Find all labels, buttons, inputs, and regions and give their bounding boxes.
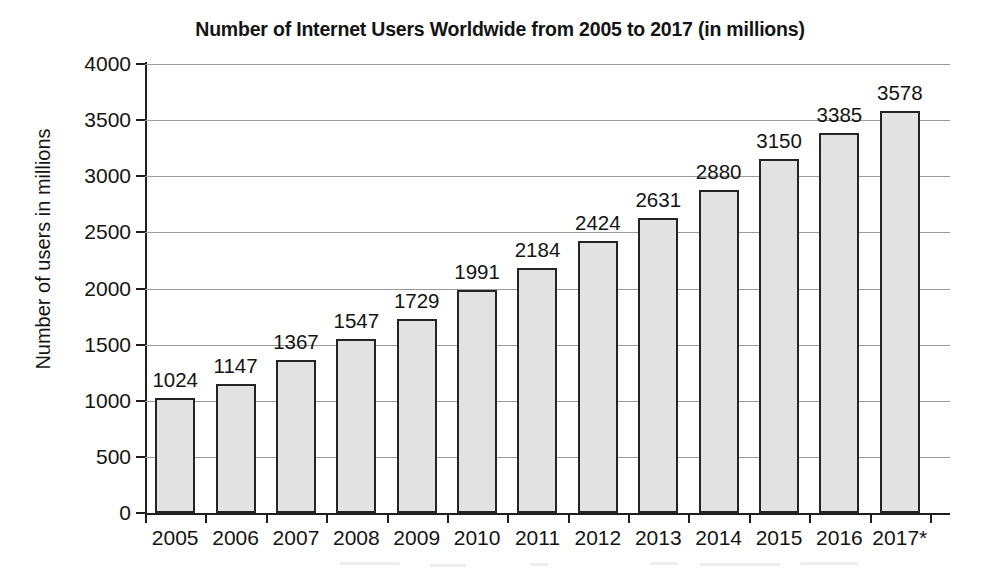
bar-value-label: 2424 (575, 211, 621, 235)
x-axis-tick (930, 513, 932, 523)
x-axis-tick-label: 2010 (454, 526, 501, 550)
x-axis-tick-label: 2014 (695, 526, 742, 550)
bar-group: 13672007 (266, 64, 326, 513)
bar-value-label: 2184 (515, 238, 561, 262)
y-axis-tick (136, 119, 145, 121)
bar-group: 33852016 (809, 64, 869, 513)
bar[interactable] (638, 218, 678, 513)
y-axis-tick-label: 1500 (84, 333, 131, 357)
bar-value-label: 3578 (877, 81, 923, 105)
bar-value-label: 2631 (635, 188, 681, 212)
bar[interactable] (699, 190, 739, 513)
bar[interactable] (397, 319, 437, 513)
x-axis-tick-label: 2009 (393, 526, 440, 550)
bar-group: 11472006 (205, 64, 265, 513)
plot-area: 05001000150020002500300035004000 1024200… (145, 64, 930, 513)
x-axis-tick (688, 513, 690, 523)
y-axis-tick-label: 500 (96, 445, 131, 469)
y-axis-tick (136, 231, 145, 233)
bar-value-label: 3385 (817, 103, 863, 127)
x-axis-tick (628, 513, 630, 523)
bar-group: 17292009 (387, 64, 447, 513)
x-axis-tick-label: 2015 (756, 526, 803, 550)
x-axis-tick-label: 2008 (333, 526, 380, 550)
bar-value-label: 1147 (214, 354, 258, 378)
bar[interactable] (578, 241, 618, 513)
y-axis-tick-label: 2000 (84, 277, 131, 301)
y-axis-tick (136, 400, 145, 402)
x-axis-tick (145, 513, 147, 523)
bar[interactable] (216, 384, 256, 513)
y-axis-tick-label: 4000 (84, 52, 131, 76)
y-axis-tick (136, 63, 145, 65)
scan-artifact (800, 562, 858, 565)
y-axis-tick (136, 344, 145, 346)
bar-group: 24242012 (568, 64, 628, 513)
bar-group: 31502015 (749, 64, 809, 513)
y-axis-tick-label: 3500 (84, 108, 131, 132)
bar-chart-figure: Number of Internet Users Worldwide from … (0, 0, 1000, 584)
x-axis-tick-label: 2006 (212, 526, 259, 550)
x-axis-tick-label: 2017* (872, 526, 927, 550)
x-axis-tick-label: 2007 (273, 526, 320, 550)
scan-artifact (430, 564, 466, 567)
bar-value-label: 1547 (334, 309, 380, 333)
x-axis-tick (205, 513, 207, 523)
scan-artifact (340, 562, 400, 565)
scan-artifact (650, 562, 678, 565)
bars-layer: 1024200511472006136720071547200817292009… (145, 64, 930, 513)
bar-group: 19912010 (447, 64, 507, 513)
bar-value-label: 1991 (454, 260, 500, 284)
y-axis-tick (136, 175, 145, 177)
bar-value-label: 1024 (152, 368, 198, 392)
bar-group: 26312013 (628, 64, 688, 513)
y-axis-tick-label: 3000 (84, 164, 131, 188)
x-axis-tick (568, 513, 570, 523)
chart-title: Number of Internet Users Worldwide from … (0, 18, 1000, 41)
y-axis-tick (136, 512, 145, 514)
x-axis-tick-label: 2005 (152, 526, 199, 550)
bar-group: 10242005 (145, 64, 205, 513)
x-axis-tick-label: 2016 (816, 526, 863, 550)
bar[interactable] (759, 159, 799, 513)
x-axis-tick-label: 2011 (515, 526, 560, 550)
bar[interactable] (155, 398, 195, 513)
bar[interactable] (276, 360, 316, 513)
y-axis-tick-label: 2500 (84, 220, 131, 244)
bar[interactable] (819, 133, 859, 513)
bar-group: 15472008 (326, 64, 386, 513)
bar[interactable] (880, 111, 920, 513)
bar-group: 21842011 (507, 64, 567, 513)
x-axis-tick (447, 513, 449, 523)
bar-value-label: 3150 (756, 129, 802, 153)
x-axis-tick (870, 513, 872, 523)
y-axis-tick-label: 0 (119, 501, 131, 525)
x-axis-tick-label: 2013 (635, 526, 682, 550)
bar-group: 28802014 (688, 64, 748, 513)
scan-artifact (700, 563, 780, 566)
bar[interactable] (336, 339, 376, 513)
x-axis-tick (387, 513, 389, 523)
x-axis-tick (749, 513, 751, 523)
bar-value-label: 1367 (273, 330, 319, 354)
x-axis-tick (507, 513, 509, 523)
y-axis-tick (136, 456, 145, 458)
bar-value-label: 2880 (696, 160, 742, 184)
bar[interactable] (457, 290, 497, 513)
x-axis-tick (326, 513, 328, 523)
x-axis-tick (809, 513, 811, 523)
x-axis-tick (266, 513, 268, 523)
bar-value-label: 1729 (394, 289, 440, 313)
bar-group: 35782017* (870, 64, 930, 513)
scan-artifact (530, 563, 548, 566)
y-axis-title: Number of users in millions (32, 19, 56, 479)
x-axis-tick-label: 2012 (575, 526, 622, 550)
bar[interactable] (517, 268, 557, 513)
y-axis-tick-label: 1000 (84, 389, 131, 413)
y-axis-tick (136, 288, 145, 290)
